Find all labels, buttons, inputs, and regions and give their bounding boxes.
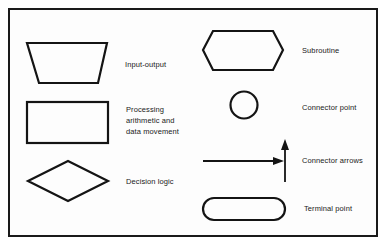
subroutine-label: Subroutine — [302, 45, 339, 56]
input-output-label: Input-output — [125, 59, 166, 70]
connector-point-circle-icon — [231, 92, 258, 119]
connector-arrows-label: Connector arrows — [302, 155, 363, 166]
processing-label-line-1: Processing — [126, 104, 179, 115]
terminal-point-pill-icon — [203, 198, 285, 220]
processing-label-line-3: data movement — [126, 126, 179, 137]
terminal-point-label: Terminal point — [304, 203, 352, 214]
processing-label-line-2: arithmetic and — [126, 115, 179, 126]
connector-point-label: Connector point — [302, 102, 356, 113]
processing-label: Processing arithmetic and data movement — [126, 104, 179, 137]
decision-diamond-icon — [28, 161, 108, 201]
input-output-trapezoid-icon — [27, 43, 107, 83]
processing-rectangle-icon — [27, 102, 108, 143]
subroutine-hexagon-icon — [203, 31, 283, 70]
connector-arrows-icon — [203, 139, 289, 182]
decision-logic-label: Decision logic — [126, 176, 174, 187]
